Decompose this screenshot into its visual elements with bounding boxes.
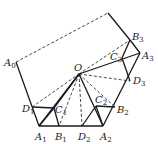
label-C1: C1 — [55, 104, 67, 117]
dashed-segment-O-D2 — [79, 74, 82, 126]
dashed-segment-D1-O — [32, 74, 79, 107]
label-D2: D2 — [77, 131, 91, 144]
label-A3: A3 — [141, 50, 154, 63]
label-D1: D1 — [21, 103, 35, 116]
solid-segment-D1-C1 — [32, 107, 54, 108]
label-A1: A1 — [34, 131, 47, 144]
label-O: O — [74, 62, 82, 73]
solid-segment-C3-D3 — [122, 58, 130, 81]
geometry-diagram: A0B3A3C3OD3D1C1C2B2A1B1D2A2 — [0, 0, 158, 144]
label-B1: B1 — [54, 131, 67, 144]
label-A0: A0 — [3, 57, 16, 70]
label-A2: A2 — [99, 131, 112, 144]
dashed-segment-O-B1 — [59, 74, 79, 126]
label-D3: D3 — [132, 75, 146, 88]
solid-segment-B3-T — [108, 13, 130, 40]
label-B3: B3 — [131, 31, 144, 44]
label-C2: C2 — [95, 94, 107, 107]
dashed-segment-O-D3 — [79, 74, 130, 81]
dashed-segment-A0-T — [16, 13, 108, 62]
solid-segment-D2-C2 — [82, 106, 96, 126]
solid-segment-A0-A1 — [16, 62, 39, 126]
solid-segment-O-A1 — [39, 74, 79, 126]
label-B2: B2 — [116, 104, 129, 117]
